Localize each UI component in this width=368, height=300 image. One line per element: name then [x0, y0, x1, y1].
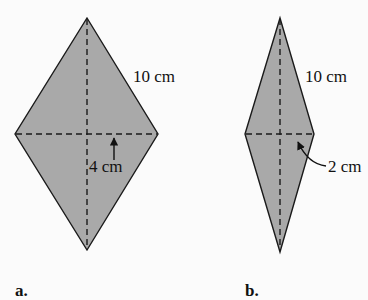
- side-label-b: 10 cm: [305, 68, 347, 85]
- diagonal-label-b: 2 cm: [328, 158, 362, 175]
- caption-b: b.: [245, 282, 259, 299]
- rhombus-b: [245, 18, 326, 252]
- side-label-a: 10 cm: [133, 68, 175, 85]
- caption-a: a.: [15, 282, 28, 299]
- diagonal-label-a: 4 cm: [89, 158, 123, 175]
- rhombus-a: [15, 18, 158, 250]
- figure-canvas: 10 cm 4 cm a. 10 cm 2 cm b.: [0, 0, 368, 300]
- rhombus-diagrams: [0, 0, 368, 300]
